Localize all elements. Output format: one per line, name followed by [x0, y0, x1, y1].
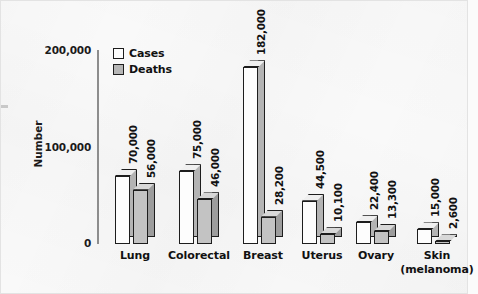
- bar-skin-deaths: [435, 234, 457, 244]
- value-label-skin-cases: 15,000: [429, 179, 441, 218]
- y-axis-tick-label-200000: 200,000: [17, 44, 91, 56]
- value-label-skin-deaths: 2,600: [447, 198, 459, 230]
- bar-skin-deaths-top-face: [435, 234, 457, 241]
- y-axis-title: Number: [32, 101, 44, 187]
- y-axis-tick-label-0: 0: [17, 237, 91, 249]
- category-label-skin: Skin(melanoma): [377, 249, 478, 276]
- category-sublabel-skin: (melanoma): [377, 263, 478, 276]
- y-axis-tick-label-100000: 100,000: [17, 141, 91, 153]
- scan-edge-artifact: [1, 105, 8, 108]
- bar-skin-cases-front-face: [417, 229, 432, 244]
- bar-group-skin: 15,0002,600: [97, 29, 463, 244]
- plot-area: 70,00056,00075,00046,000182,00028,20044,…: [97, 29, 463, 244]
- bar-skin-deaths-front-face: [435, 241, 450, 244]
